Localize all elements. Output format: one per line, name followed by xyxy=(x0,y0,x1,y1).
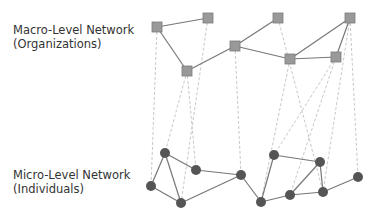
cross-level-link xyxy=(274,57,336,155)
cross-level-link xyxy=(290,57,336,195)
cross-level-link xyxy=(181,18,208,203)
organization-node xyxy=(230,41,240,51)
individual-node xyxy=(146,181,156,191)
cross-level-link xyxy=(261,59,290,202)
cross-level-link xyxy=(187,71,196,170)
individual-node xyxy=(176,198,186,208)
macro-edge xyxy=(235,46,290,59)
cross-level-link xyxy=(151,27,157,186)
organization-node xyxy=(285,54,295,64)
macro-edge xyxy=(290,57,336,59)
cross-level-link xyxy=(323,18,350,192)
micro-edge xyxy=(290,162,320,195)
macro-edge xyxy=(187,46,235,71)
multilevel-network-diagram: Macro-Level Network (Organizations) Micr… xyxy=(0,0,378,218)
micro-edge xyxy=(196,170,241,175)
macro-edge xyxy=(336,18,350,57)
micro-edge xyxy=(241,175,261,202)
individual-node xyxy=(256,197,266,207)
macro-edge xyxy=(157,18,208,27)
individual-node xyxy=(353,172,363,182)
macro-edge xyxy=(157,27,187,71)
organization-node xyxy=(331,52,341,62)
organization-node xyxy=(182,66,192,76)
micro-edge xyxy=(323,177,358,192)
cross-level-link xyxy=(165,71,187,153)
individual-node xyxy=(269,150,279,160)
individual-node xyxy=(160,148,170,158)
organization-node xyxy=(203,13,213,23)
micro-edge xyxy=(261,155,274,202)
individual-node xyxy=(318,187,328,197)
individual-node xyxy=(285,190,295,200)
cross-level-link xyxy=(350,18,358,177)
network-graph xyxy=(0,0,378,218)
cross-level-link xyxy=(235,46,241,175)
micro-edge xyxy=(274,155,320,162)
macro-edge xyxy=(235,18,278,46)
micro-edge xyxy=(181,175,241,203)
individual-node xyxy=(315,157,325,167)
organization-node xyxy=(345,13,355,23)
micro-edge xyxy=(151,153,165,186)
organization-node xyxy=(273,13,283,23)
organization-node xyxy=(152,22,162,32)
individual-node xyxy=(191,165,201,175)
individual-node xyxy=(236,170,246,180)
